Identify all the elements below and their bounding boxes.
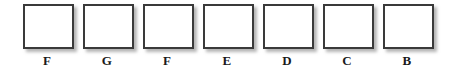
box-sequence-diagram: F G F E D C B — [0, 0, 453, 71]
box-group-3: F — [140, 0, 200, 71]
box-label: F — [20, 53, 74, 68]
empty-box[interactable] — [203, 4, 254, 49]
empty-box[interactable] — [383, 4, 434, 49]
box-label: C — [320, 53, 374, 68]
box-group-4: E — [200, 0, 260, 71]
box-label: G — [80, 53, 134, 68]
box-group-6: C — [320, 0, 380, 71]
box-label: E — [200, 53, 254, 68]
box-label: D — [260, 53, 314, 68]
box-label: B — [380, 53, 434, 68]
empty-box[interactable] — [263, 4, 314, 49]
box-group-1: F — [20, 0, 80, 71]
empty-box[interactable] — [83, 4, 134, 49]
box-label: F — [140, 53, 194, 68]
box-group-5: D — [260, 0, 320, 71]
box-group-7: B — [380, 0, 440, 71]
empty-box[interactable] — [323, 4, 374, 49]
box-group-2: G — [80, 0, 140, 71]
empty-box[interactable] — [143, 4, 194, 49]
empty-box[interactable] — [23, 4, 74, 49]
